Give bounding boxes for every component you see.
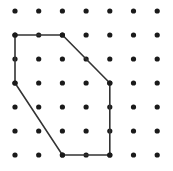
- grid-dot: [131, 8, 136, 13]
- grid-dot: [36, 128, 41, 133]
- grid-dot: [131, 32, 136, 37]
- grid-dot: [107, 8, 112, 13]
- grid-dot: [84, 80, 89, 85]
- grid-dot: [36, 8, 41, 13]
- grid-dot: [131, 80, 136, 85]
- grid-dot: [107, 32, 112, 37]
- grid-dot: [60, 8, 65, 13]
- grid-dot: [60, 56, 65, 61]
- grid-dot: [36, 152, 41, 157]
- grid-dot: [36, 80, 41, 85]
- grid-dot: [12, 8, 17, 13]
- grid-dot: [131, 152, 136, 157]
- grid-dot: [155, 8, 160, 13]
- hexagon-vertex-dot: [107, 152, 112, 157]
- grid-dot: [131, 56, 136, 61]
- grid-dot: [36, 56, 41, 61]
- grid-dot: [12, 104, 17, 109]
- grid-dot: [84, 128, 89, 133]
- grid-dot: [60, 128, 65, 133]
- grid-dot: [155, 128, 160, 133]
- grid-dot: [155, 104, 160, 109]
- hexagon-vertex-dot: [107, 80, 112, 85]
- grid-dot: [12, 128, 17, 133]
- hexagon-vertex-dot: [12, 32, 17, 37]
- geoboard-canvas: [0, 0, 173, 171]
- grid-dot: [155, 32, 160, 37]
- grid-dot: [131, 128, 136, 133]
- geoboard-figure: [0, 0, 173, 171]
- grid-dot: [12, 152, 17, 157]
- grid-dot: [84, 32, 89, 37]
- grid-dot: [84, 8, 89, 13]
- grid-dot: [155, 80, 160, 85]
- hexagon-vertex-dot: [12, 80, 17, 85]
- grid-dot: [36, 104, 41, 109]
- grid-dot: [155, 152, 160, 157]
- hexagon-vertex-dot: [60, 32, 65, 37]
- hexagon-vertex-dot: [60, 152, 65, 157]
- grid-dot: [60, 104, 65, 109]
- grid-dot: [131, 104, 136, 109]
- grid-dot: [84, 104, 89, 109]
- grid-dot: [60, 80, 65, 85]
- grid-dot: [107, 56, 112, 61]
- grid-dot: [155, 56, 160, 61]
